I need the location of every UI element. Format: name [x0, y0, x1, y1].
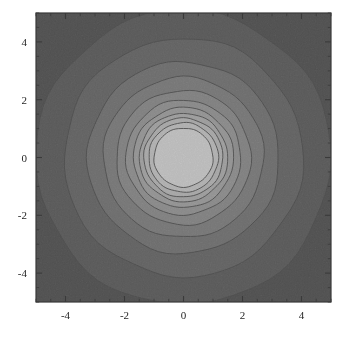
contour-plot-canvas: -4-2024 -4-2024	[0, 0, 347, 337]
plot-texture-overlay	[36, 13, 331, 302]
y-tick-label: 2	[22, 94, 28, 106]
x-tick-label: -2	[120, 309, 129, 321]
x-tick-label: 2	[240, 309, 246, 321]
x-tick-label: 0	[181, 309, 187, 321]
y-tick-label: -2	[18, 209, 27, 221]
y-tick-label: 4	[22, 36, 28, 48]
x-tick-label: -4	[61, 309, 71, 321]
y-tick-label: -4	[18, 267, 28, 279]
x-tick-label: 4	[299, 309, 305, 321]
contour-plot-figure: -4-2024 -4-2024	[0, 0, 347, 337]
y-tick-label: 0	[22, 152, 28, 164]
